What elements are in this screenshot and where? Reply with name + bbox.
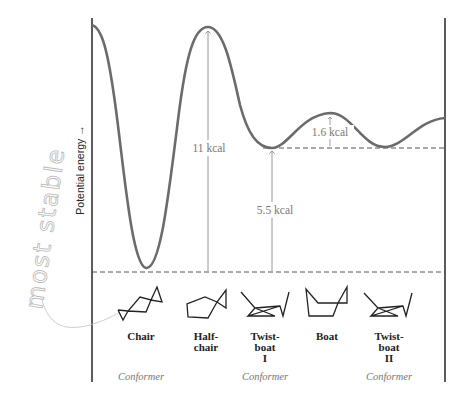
conformer-name-half-chair-2: chair (194, 341, 219, 353)
y-axis-label: Potential energy → (74, 125, 86, 214)
handwritten-note: most stable (20, 146, 70, 311)
label-11-kcal: 11 kcal (192, 142, 225, 154)
conformer-name-boat: Boat (316, 330, 338, 342)
handwritten-pointer (42, 300, 120, 327)
conformer-name-twist-boat-ii-3: II (385, 352, 394, 364)
chair-molecule-icon (118, 287, 162, 320)
half-chair-molecule-icon (187, 290, 226, 318)
caption-conformer-3: Conformer (366, 371, 413, 382)
caption-conformer-1: Conformer (118, 371, 165, 382)
label-1-6-kcal: 1.6 kcal (312, 126, 348, 138)
twist-boat-ii-molecule-icon (364, 293, 412, 316)
energy-curve (92, 25, 445, 268)
caption-conformer-2: Conformer (242, 371, 289, 382)
label-5-5-kcal: 5.5 kcal (257, 204, 293, 216)
twist-boat-i-molecule-icon (241, 292, 289, 316)
conformer-name-twist-boat-i-3: I (263, 352, 267, 364)
energy-diagram: 11 kcal 5.5 kcal 1.6 kcal Potential ener… (0, 0, 463, 400)
conformer-name-chair: Chair (127, 330, 155, 342)
boat-molecule-icon (306, 287, 347, 316)
